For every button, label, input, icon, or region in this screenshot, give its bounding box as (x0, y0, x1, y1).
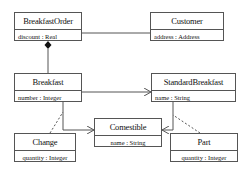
class-name: BreakfastOrder (15, 13, 81, 30)
class-name: StandardBreakfast (152, 74, 235, 91)
class-standard-breakfast[interactable]: StandardBreakfast name : String (151, 73, 236, 102)
association-breakfast-comestible (63, 102, 94, 130)
class-attribute: number : Integer (15, 91, 81, 104)
class-name: Breakfast (15, 74, 81, 91)
association-class-link-part (173, 115, 200, 133)
association-class-link-change (50, 112, 63, 133)
class-name: Customer (151, 13, 223, 30)
class-comestible[interactable]: Comestible name : String (94, 118, 162, 147)
class-name: Part (171, 134, 237, 151)
class-part[interactable]: Part quantity : Integer (170, 133, 238, 162)
class-breakfast[interactable]: Breakfast number : Integer (14, 73, 82, 102)
class-name: Comestible (95, 119, 161, 136)
class-change[interactable]: Change quantity : Integer (14, 133, 76, 162)
class-customer[interactable]: Customer address : Address (150, 12, 224, 41)
class-breakfast-order[interactable]: BreakfastOrder discount : Real (14, 12, 82, 41)
association-standard-comestible (162, 102, 173, 130)
class-attribute: name : String (95, 136, 161, 149)
class-attribute: quantity : Integer (171, 151, 237, 164)
class-attribute: quantity : Integer (15, 151, 75, 164)
class-attribute: name : String (152, 91, 235, 104)
class-attribute: discount : Real (15, 30, 81, 43)
class-name: Change (15, 134, 75, 151)
class-attribute: address : Address (151, 30, 223, 43)
